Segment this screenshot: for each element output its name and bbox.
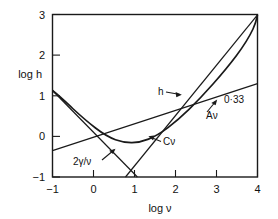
annotation-c-nu-label: Cν <box>163 136 175 147</box>
annotation-two-gamma-over-nu-label: 2γ/ν <box>73 156 91 167</box>
x-axis-tick-labels: −1 0 1 2 3 4 <box>46 183 260 195</box>
y-tick-label-1: 1 <box>39 90 45 102</box>
x-axis-ticks <box>53 170 258 177</box>
annotation-exponent-label: 0·33 <box>224 94 244 105</box>
x-tick-label-3: 3 <box>213 183 219 195</box>
y-axis-tick-labels: 3 2 1 0 −1 <box>32 9 45 184</box>
annotation-h-arrow-icon <box>176 92 182 97</box>
x-tick-label-4: 4 <box>254 183 260 195</box>
figure-container: 3 2 1 0 −1 −1 0 1 2 3 4 log h log ν h <box>0 0 278 219</box>
x-tick-label-neg1: −1 <box>46 183 59 195</box>
y-tick-label-neg1: −1 <box>32 171 45 183</box>
y-tick-label-3: 3 <box>39 9 45 21</box>
annotation-a-nu: Aν <box>206 100 218 121</box>
annotation-a-nu-arrow-icon <box>211 100 217 106</box>
chart-canvas: 3 2 1 0 −1 −1 0 1 2 3 4 log h log ν h <box>0 0 278 219</box>
x-tick-label-2: 2 <box>172 183 178 195</box>
annotation-exponent: 0·33 <box>224 94 244 105</box>
x-tick-label-1: 1 <box>131 183 137 195</box>
series-curve-h <box>53 15 258 143</box>
x-tick-label-0: 0 <box>90 183 96 195</box>
annotation-c-nu: Cν <box>148 136 175 147</box>
annotation-two-gamma-over-nu: 2γ/ν <box>73 149 116 167</box>
annotation-h: h <box>158 86 182 97</box>
y-tick-label-0: 0 <box>39 130 45 142</box>
series-line-two-gamma-over-nu <box>53 91 138 178</box>
x-axis-label: log ν <box>148 202 172 214</box>
annotation-h-label: h <box>158 86 164 97</box>
y-tick-label-2: 2 <box>39 49 45 61</box>
y-axis-label: log h <box>18 68 42 80</box>
